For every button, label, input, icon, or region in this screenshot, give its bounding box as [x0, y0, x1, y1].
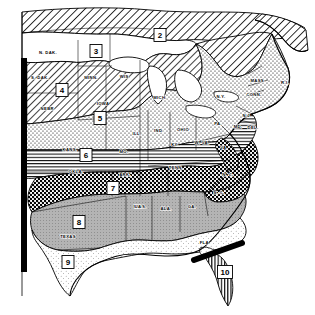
state-label: LA. [135, 204, 143, 209]
state-label: MO. [120, 149, 129, 154]
state-label: FLA. [200, 240, 211, 245]
zone-marker-3[interactable]: 3 [90, 45, 102, 58]
state-label: KANS. [63, 147, 78, 152]
zone-number: 2 [158, 31, 163, 40]
zone-marker-6[interactable]: 6 [80, 149, 92, 162]
state-label: MICH. [153, 95, 167, 100]
zone-marker-2[interactable]: 2 [154, 29, 166, 42]
zone-number: 4 [60, 86, 65, 95]
state-label: MD. [234, 124, 243, 129]
state-label: ALA. [160, 206, 171, 211]
state-label: S. DAK. [31, 75, 49, 80]
zone-marker-4[interactable]: 4 [56, 84, 68, 97]
zone-number: 7 [111, 184, 116, 193]
state-label: DEL. [248, 125, 259, 130]
state-label: MINN. [84, 75, 98, 80]
state-label: MASS. [250, 78, 265, 83]
zone-number: 6 [84, 151, 89, 160]
state-label: KY. [171, 142, 179, 147]
zone-map-canvas: N. DAK.S. DAK.MINN.NEBR.IOWAWIS.MICH.ILL… [0, 0, 315, 315]
zone-number: 9 [66, 258, 71, 267]
state-label: OHIO [177, 127, 189, 132]
state-label: GA. [188, 204, 197, 209]
state-label: VA. [220, 145, 228, 150]
state-label: N.Y. [216, 94, 225, 99]
zone-marker-8[interactable]: 8 [73, 216, 85, 229]
state-label: R.I. [281, 80, 289, 85]
state-label: N.J. [242, 113, 251, 118]
zone-number: 10 [221, 268, 230, 277]
state-label: ARK. [119, 172, 131, 177]
state-label: OKLA. [69, 169, 84, 174]
zone-number: 3 [94, 47, 99, 56]
zone-marker-10[interactable]: 10 [218, 266, 233, 279]
zone-map: N. DAK.S. DAK.MINN.NEBR.IOWAWIS.MICH.ILL… [0, 0, 315, 315]
zone-number: 8 [77, 218, 82, 227]
state-label: TENN. [169, 165, 183, 170]
state-label: IND. [154, 128, 164, 133]
state-label: TEXAS [60, 234, 76, 239]
zone-marker-9[interactable]: 9 [62, 256, 74, 269]
state-label: CONN. [246, 92, 261, 97]
zone-marker-5[interactable]: 5 [94, 112, 106, 125]
state-label: WIS. [120, 74, 130, 79]
state-label: S. C. [213, 190, 224, 195]
zone-number: 5 [98, 114, 103, 123]
state-label: NEBR. [41, 106, 56, 111]
state-label: PA. [214, 121, 222, 126]
state-label: IOWA [97, 101, 110, 106]
state-label: ILL. [133, 131, 142, 136]
state-label: N. C. [222, 172, 233, 177]
state-label: N. DAK. [39, 50, 57, 55]
zone-marker-7[interactable]: 7 [107, 182, 119, 195]
state-label: W. VA. [195, 140, 210, 145]
